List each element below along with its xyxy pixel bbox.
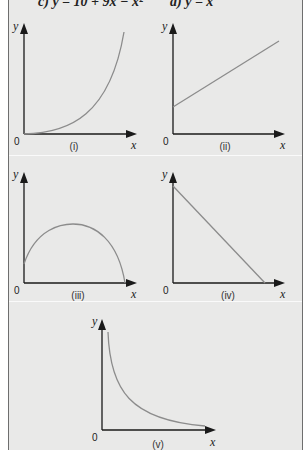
graph-caption: (ii): [219, 141, 230, 152]
origin-label: 0: [163, 136, 169, 147]
y-axis-arrow-icon: [169, 172, 177, 183]
graph-caption: (iv): [221, 290, 235, 301]
y-axis-arrow-icon: [98, 319, 106, 330]
y-axis-label: y: [12, 167, 19, 181]
origin-label: 0: [163, 285, 169, 296]
x-axis-label: x: [279, 287, 286, 301]
y-axis-label: y: [12, 19, 19, 33]
graph-caption: (v): [152, 439, 164, 450]
graph-i: y x 0 (i): [12, 19, 137, 152]
graph-ii: y x 0 (ii): [161, 19, 286, 152]
x-axis-label: x: [279, 138, 286, 152]
y-axis-arrow-icon: [20, 172, 28, 183]
y-axis-arrow-icon: [20, 23, 28, 34]
graphs-figure: y x 0 (i) y x 0 (ii) y x 0 (iii) y x 0: [0, 0, 307, 450]
line: [173, 41, 279, 107]
x-axis-arrow-icon: [126, 279, 137, 287]
x-axis-label: x: [130, 138, 137, 152]
x-axis-arrow-icon: [274, 279, 285, 287]
origin-label: 0: [14, 136, 20, 147]
x-axis-arrow-icon: [205, 426, 216, 434]
y-axis-arrow-icon: [169, 23, 177, 34]
line: [173, 186, 265, 283]
graph-caption: (i): [70, 141, 79, 152]
graph-iii: y x 0 (iii): [12, 167, 137, 301]
origin-label: 0: [14, 285, 20, 296]
graph-caption: (iii): [71, 290, 84, 301]
x-axis-label: x: [130, 287, 137, 301]
curve: [108, 332, 205, 426]
y-axis-label: y: [161, 19, 168, 33]
origin-label: 0: [92, 432, 98, 443]
graph-iv: y x 0 (iv): [161, 167, 286, 301]
graph-v: y x 0 (v): [91, 314, 216, 450]
y-axis-label: y: [91, 314, 98, 328]
y-axis-label: y: [161, 167, 168, 181]
x-axis-arrow-icon: [126, 130, 137, 138]
x-axis-label: x: [209, 435, 216, 449]
x-axis-arrow-icon: [274, 130, 285, 138]
curve: [24, 32, 124, 134]
curve: [24, 224, 125, 283]
